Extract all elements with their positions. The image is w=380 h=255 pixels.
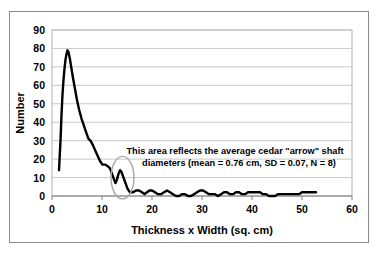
- x-tick-label: 0: [49, 203, 55, 215]
- x-tick-label: 20: [146, 203, 158, 215]
- y-tick-label: 90: [33, 24, 45, 36]
- line-chart: 0102030405060708090 0102030405060 This a…: [0, 0, 380, 255]
- annotation-line-2: diameters (mean = 0.76 cm, SD = 0.07, N …: [142, 158, 336, 168]
- y-axis-title: Number: [14, 92, 26, 134]
- x-axis-tick-labels: 0102030405060: [49, 203, 358, 215]
- x-tick-label: 30: [196, 203, 208, 215]
- y-tick-label: 80: [33, 42, 45, 54]
- y-tick-label: 70: [33, 61, 45, 73]
- y-tick-label: 10: [33, 172, 45, 184]
- x-tick-label: 60: [346, 203, 358, 215]
- chart-figure: 0102030405060708090 0102030405060 This a…: [0, 0, 380, 255]
- y-tick-label: 0: [39, 190, 45, 202]
- plot-area: [52, 30, 352, 196]
- y-axis-tick-labels: 0102030405060708090: [33, 24, 45, 202]
- x-axis-tick-marks: [52, 196, 352, 200]
- y-tick-label: 30: [33, 135, 45, 147]
- y-tick-label: 20: [33, 153, 45, 165]
- y-tick-label: 50: [33, 98, 45, 110]
- y-tick-label: 60: [33, 79, 45, 91]
- y-tick-label: 40: [33, 116, 45, 128]
- annotation-line-1: This area reflects the average cedar "ar…: [126, 146, 343, 156]
- x-axis-title: Thickness x Width (sq. cm): [131, 224, 273, 236]
- x-tick-label: 50: [296, 203, 308, 215]
- x-tick-label: 40: [246, 203, 258, 215]
- x-tick-label: 10: [96, 203, 108, 215]
